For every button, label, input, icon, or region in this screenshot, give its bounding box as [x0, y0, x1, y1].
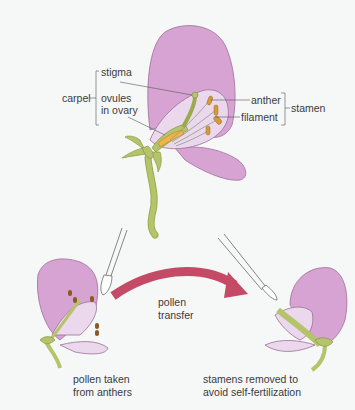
left-caption-line1: pollen taken — [73, 373, 132, 386]
arrow-label-line2: transfer — [158, 309, 194, 322]
pollen-transfer-arrow — [113, 271, 248, 298]
arrow-label-line1: pollen — [158, 296, 194, 309]
label-stamen: stamen — [291, 102, 325, 114]
diagram-art — [0, 0, 355, 410]
label-ovules: ovules — [101, 92, 131, 104]
arrow-label: pollen transfer — [158, 296, 194, 322]
label-filament: filament — [241, 111, 278, 123]
top-flower — [89, 26, 290, 235]
label-stigma: stigma — [101, 66, 132, 78]
label-in-ovary: in ovary — [101, 104, 138, 116]
right-flower — [218, 234, 347, 370]
right-caption-line1: stamens removed to — [203, 373, 301, 386]
left-caption: pollen taken from anthers — [73, 373, 132, 399]
right-caption-line2: avoid self-fertilization — [203, 386, 301, 399]
right-caption: stamens removed to avoid self-fertilizat… — [203, 373, 301, 399]
left-flower — [37, 228, 127, 368]
left-caption-line2: from anthers — [73, 386, 132, 399]
label-anther: anther — [251, 94, 281, 106]
label-carpel: carpel — [62, 92, 91, 104]
